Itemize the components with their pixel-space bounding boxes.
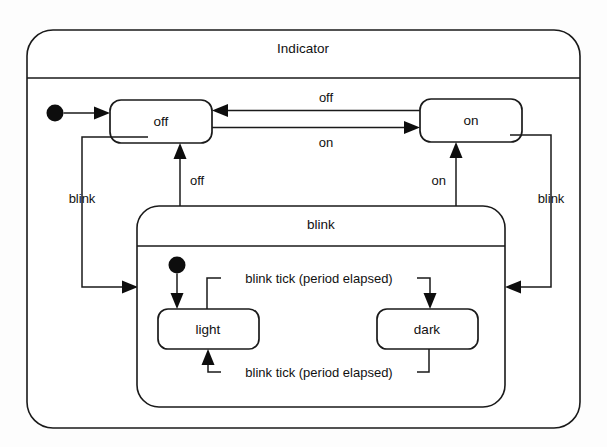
initial-state-dot [169,257,186,274]
indicator-title: Indicator [277,41,329,56]
dark-to-light-label: blink tick (period elapsed) [245,365,392,380]
state-light[interactable]: light [158,309,259,349]
statechart-canvas: Indicator off on off on [0,0,607,447]
on-state-label: on [463,113,478,128]
off-to-blink-label: blink [69,191,96,206]
dark-state-label: dark [414,322,441,337]
light-state-label: light [196,322,221,337]
blink-title: blink [307,217,335,232]
on-to-off-label: off [319,90,334,105]
off-to-on-label: on [319,135,333,150]
state-on[interactable]: on [420,99,522,142]
blink-to-on-label: on [432,173,446,188]
blink-to-off-label: off [190,173,205,188]
on-to-blink-label: blink [538,191,565,206]
state-dark[interactable]: dark [377,309,478,349]
statechart-diagram: Indicator off on off on [0,0,607,447]
off-state-label: off [154,114,169,129]
initial-state-dot [47,105,64,122]
light-to-dark-label: blink tick (period elapsed) [245,271,392,286]
